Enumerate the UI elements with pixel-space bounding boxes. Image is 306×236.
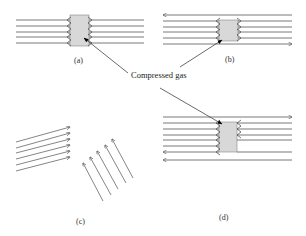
panel-label-d: (d) <box>219 213 228 222</box>
gas-box <box>70 15 89 46</box>
panel-d <box>163 117 292 160</box>
panel-b <box>163 15 292 44</box>
gas-box <box>219 122 237 152</box>
panel-label-a: (a) <box>74 56 83 65</box>
leader-to-d <box>160 88 222 124</box>
panel-c <box>16 127 133 201</box>
panel-label-c: (c) <box>76 217 85 226</box>
gas-box <box>219 20 238 41</box>
diagram-canvas <box>0 0 306 236</box>
callout-compressed-gas: Compressed gas <box>131 70 186 80</box>
panel-label-b: (b) <box>225 55 234 64</box>
panel-a <box>16 15 144 46</box>
callout-leaders <box>84 38 222 124</box>
